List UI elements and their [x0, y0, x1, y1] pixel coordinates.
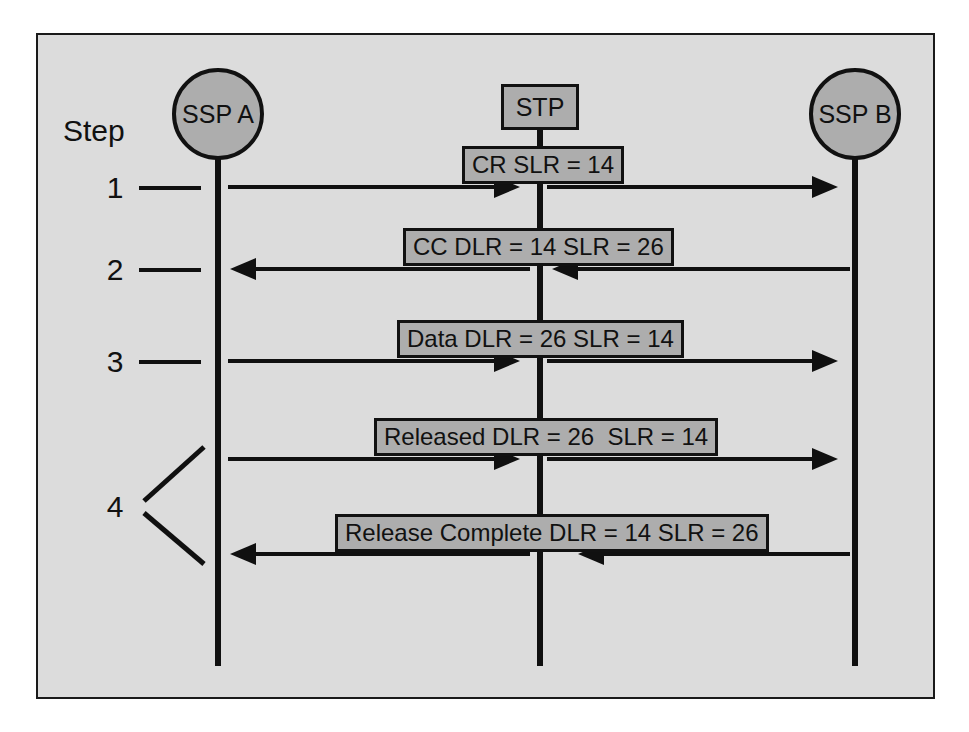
- step-rule-1: [139, 186, 201, 190]
- lifeline-stp: [537, 128, 543, 666]
- lifeline-ssp-b: [852, 150, 858, 666]
- message-label-4b-text: Release Complete DLR = 14 SLR = 26: [345, 521, 759, 545]
- node-stp-label: STP: [516, 93, 565, 122]
- message-arrow-1b-head: [812, 176, 838, 198]
- message-arrow-3b-shaft: [547, 359, 812, 363]
- message-label-2-text: CC DLR = 14 SLR = 26: [413, 235, 664, 259]
- step-4-brace: [138, 443, 210, 568]
- message-arrow-2a-head: [230, 258, 256, 280]
- step-rule-2: [139, 268, 201, 272]
- diagram-frame: [36, 33, 935, 699]
- message-label-4a-text: Released DLR = 26 SLR = 14: [384, 425, 708, 449]
- message-arrow-3b-head: [812, 350, 838, 372]
- message-arrow-2b-shaft: [578, 267, 850, 271]
- node-ssp-a[interactable]: SSP A: [172, 68, 264, 160]
- message-label-4b[interactable]: Release Complete DLR = 14 SLR = 26: [335, 514, 769, 552]
- step-number-3: 3: [100, 345, 130, 379]
- lifeline-ssp-a: [215, 150, 221, 666]
- message-label-2[interactable]: CC DLR = 14 SLR = 26: [403, 228, 674, 266]
- step-number-4: 4: [100, 490, 130, 524]
- step-rule-3: [139, 360, 201, 364]
- node-ssp-b-label: SSP B: [818, 100, 891, 129]
- node-ssp-b[interactable]: SSP B: [809, 68, 901, 160]
- message-label-3-text: Data DLR = 26 SLR = 14: [407, 327, 674, 351]
- message-arrow-4a1-shaft: [228, 457, 494, 461]
- message-arrow-3a-shaft: [228, 359, 494, 363]
- message-arrow-4b1-shaft: [604, 552, 850, 556]
- step-number-2: 2: [100, 253, 130, 287]
- message-arrow-4a2-head: [812, 448, 838, 470]
- message-arrow-4b2-shaft: [256, 552, 530, 556]
- message-label-1-text: CR SLR = 14: [472, 153, 614, 177]
- step-column-header: Step: [63, 114, 125, 148]
- node-ssp-a-label: SSP A: [182, 100, 254, 129]
- node-stp[interactable]: STP: [501, 84, 579, 130]
- message-arrow-4b2-head: [230, 543, 256, 565]
- message-label-3[interactable]: Data DLR = 26 SLR = 14: [397, 320, 684, 358]
- diagram-canvas: SSP A STP SSP B Step 1 2 3 4 CR SLR = 14…: [0, 0, 969, 732]
- step-number-1: 1: [100, 171, 130, 205]
- message-arrow-1b-shaft: [547, 185, 812, 189]
- message-label-4a[interactable]: Released DLR = 26 SLR = 14: [374, 418, 718, 456]
- message-arrow-1a-shaft: [228, 185, 494, 189]
- message-arrow-4a2-shaft: [547, 457, 812, 461]
- message-arrow-2a-shaft: [256, 267, 530, 271]
- message-label-1[interactable]: CR SLR = 14: [462, 146, 624, 184]
